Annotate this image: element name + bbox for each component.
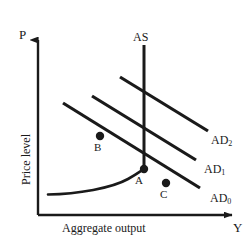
point-label-c: C (160, 189, 167, 200)
x-axis-variable-label: Y (233, 221, 242, 234)
point-label-b: B (94, 142, 101, 153)
point-label-a: A (135, 175, 143, 186)
point-marker-c (162, 179, 170, 187)
x-axis-title: Aggregate output (62, 222, 146, 234)
y-axis-variable-label: P (19, 28, 26, 41)
point-marker-a (140, 165, 148, 173)
ad0-base: AD (210, 191, 227, 205)
ad1-base: AD (204, 162, 221, 176)
short-run-aggregate-supply-curve (48, 169, 144, 195)
y-axis-title: Price level (20, 134, 32, 185)
aggregate-demand-curve-0 (63, 103, 200, 188)
aggregate-supply-label: AS (133, 31, 148, 43)
ad0-subscript: 0 (227, 197, 231, 206)
aggregate-demand-label-1: AD1 (204, 163, 225, 175)
diagram-canvas (0, 0, 251, 251)
aggregate-demand-label-2: AD2 (211, 134, 232, 146)
ad2-base: AD (211, 133, 228, 147)
point-marker-b (96, 132, 104, 140)
ad1-subscript: 1 (221, 168, 225, 177)
aggregate-demand-label-0: AD0 (210, 192, 231, 204)
as-ad-diagram: P Y Price level Aggregate output AS AD2 … (0, 0, 251, 251)
ad2-subscript: 2 (228, 139, 232, 148)
